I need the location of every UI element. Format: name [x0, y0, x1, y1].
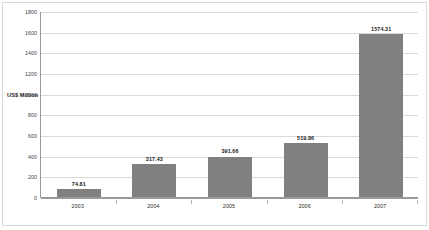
bar-chart: US$ Million 0200400600800100012001400160… [0, 0, 429, 230]
y-axis-tick-label: 400 [3, 154, 37, 160]
bar[interactable] [284, 143, 328, 197]
y-axis-tick-label: 200 [3, 174, 37, 180]
y-axis-tick-label: 0 [3, 195, 37, 201]
bar[interactable] [132, 164, 176, 197]
bar-slot: 519.86 [268, 12, 344, 197]
gridline [41, 198, 418, 199]
x-axis-tick-labels: 20032004200520062007 [40, 200, 418, 216]
y-axis-tick-label: 1600 [3, 30, 37, 36]
x-axis-tick-label: 2003 [72, 203, 84, 209]
plot-area: 74.81317.43391.66519.861574.31 [40, 12, 418, 198]
y-axis-tick-label: 1800 [3, 9, 37, 15]
x-axis-tick-label: 2004 [147, 203, 159, 209]
x-axis-separator-tick [342, 200, 343, 204]
x-axis-tick-slot: 2007 [342, 200, 418, 216]
x-axis-tick-slot: 2005 [191, 200, 267, 216]
y-axis-tick-label: 1000 [3, 92, 37, 98]
bar-value-label: 317.43 [146, 156, 163, 162]
x-axis-separator-tick [417, 200, 418, 204]
bar-value-label: 391.66 [221, 148, 238, 154]
bar-slot: 1574.31 [343, 12, 419, 197]
x-axis-separator-tick [116, 200, 117, 204]
y-axis-tick-labels: 020040060080010001200140016001800 [0, 12, 37, 198]
y-axis-tick-label: 1400 [3, 50, 37, 56]
x-axis-tick-slot: 2004 [116, 200, 192, 216]
x-axis-tick-slot: 2003 [40, 200, 116, 216]
x-axis-tick-label: 2006 [298, 203, 310, 209]
y-axis-tick-label: 1200 [3, 71, 37, 77]
bar[interactable] [208, 157, 252, 197]
bar[interactable] [359, 34, 403, 197]
bar[interactable] [57, 189, 101, 197]
bar-slot: 317.43 [117, 12, 193, 197]
x-axis-separator-tick [267, 200, 268, 204]
bar-slot: 391.66 [192, 12, 268, 197]
y-axis-tick-label: 800 [3, 112, 37, 118]
x-axis-tick-slot: 2006 [267, 200, 343, 216]
bar-value-label: 519.86 [297, 135, 314, 141]
x-axis-tick-label: 2007 [374, 203, 386, 209]
bar-value-label: 1574.31 [371, 26, 391, 32]
bar-slot: 74.81 [41, 12, 117, 197]
y-axis-tick-label: 600 [3, 133, 37, 139]
x-axis-separator-tick [191, 200, 192, 204]
bar-value-label: 74.81 [72, 181, 86, 187]
x-axis-tick-label: 2005 [223, 203, 235, 209]
